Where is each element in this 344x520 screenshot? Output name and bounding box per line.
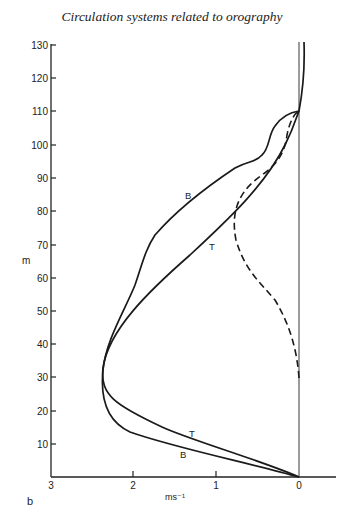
svg-text:70: 70 [37,240,49,251]
label-T-lower: T [189,428,195,439]
svg-text:0: 0 [296,480,302,491]
curve-T [103,42,305,477]
curve-dashed [234,111,299,378]
svg-text:90: 90 [37,173,49,184]
svg-text:100: 100 [31,140,48,151]
y-tick-labels: 130 120 110 100 90 80 70 60 50 40 30 20 … [31,40,48,450]
x-axis-label: ms⁻¹ [165,492,185,502]
svg-text:10: 10 [37,439,49,450]
svg-text:20: 20 [37,406,49,417]
label-T-upper: T [209,241,215,252]
y-ticks [51,45,56,444]
svg-text:50: 50 [37,306,49,317]
svg-text:30: 30 [37,372,49,383]
y-axis-label: m [22,255,30,266]
svg-text:1: 1 [213,480,219,491]
svg-text:120: 120 [31,73,48,84]
svg-text:60: 60 [37,273,49,284]
x-ticks [133,471,216,477]
svg-text:2: 2 [130,480,136,491]
svg-text:3: 3 [48,480,54,491]
svg-text:80: 80 [37,206,49,217]
svg-text:130: 130 [31,40,48,51]
panel-label: b [27,495,33,507]
svg-text:110: 110 [32,106,48,117]
x-tick-labels: 3 2 1 0 [48,480,302,491]
svg-text:40: 40 [37,339,49,350]
label-B-lower: B [180,449,186,460]
chart-canvas: 130 120 110 100 90 80 70 60 50 40 30 20 … [0,0,344,520]
label-B-upper: B [185,190,191,201]
